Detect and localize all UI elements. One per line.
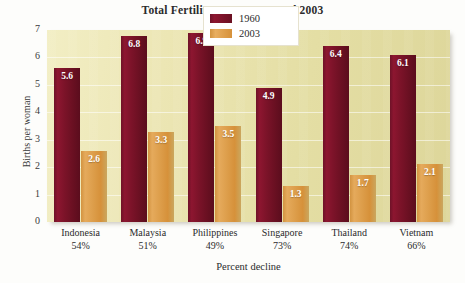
bar-group: 6.12.1: [390, 30, 443, 222]
bar-2003-indonesia: 2.6: [81, 151, 107, 222]
bar-value-label: 2.1: [417, 167, 443, 177]
bar-2003-philippines: 3.5: [215, 126, 241, 222]
x-label-vietnam: Vietnam66%: [371, 226, 461, 252]
bar-group: 5.62.6: [54, 30, 107, 222]
bar-1960-thailand: 6.4: [323, 46, 349, 222]
bar-group: 6.83.3: [121, 30, 174, 222]
legend-item-1960: 1960: [210, 11, 292, 26]
bar-1960-vietnam: 6.1: [390, 55, 416, 222]
bar-value-label: 5.6: [54, 71, 80, 81]
plot-area: 5.62.66.83.36.93.54.91.36.41.76.12.1: [47, 30, 450, 222]
bar-value-label: 3.5: [215, 129, 241, 139]
legend-item-2003: 2003: [210, 26, 292, 41]
bar-2003-malaysia: 3.3: [148, 132, 174, 223]
legend-swatch-2003-icon: [210, 29, 232, 38]
legend-swatch-1960-icon: [210, 14, 232, 23]
bar-2003-thailand: 1.7: [350, 175, 376, 222]
y-tick-label: 7: [24, 23, 40, 34]
bar-group: 4.91.3: [256, 30, 309, 222]
y-tick-label: 0: [24, 215, 40, 226]
bar-value-label: 4.9: [256, 91, 282, 101]
x-label-country: Vietnam: [371, 226, 461, 239]
bar-value-label: 6.8: [121, 39, 147, 49]
bar-2003-singapore: 1.3: [283, 186, 309, 222]
x-label-percent-decline: 66%: [371, 239, 461, 252]
bar-1960-singapore: 4.9: [256, 88, 282, 222]
legend-label-1960: 1960: [239, 13, 260, 24]
x-axis-title: Percent decline: [47, 261, 450, 272]
bar-2003-vietnam: 2.1: [417, 164, 443, 222]
bar-value-label: 6.4: [323, 49, 349, 59]
legend-label-2003: 2003: [239, 28, 260, 39]
bar-value-label: 2.6: [81, 154, 107, 164]
bar-1960-philippines: 6.9: [188, 33, 214, 222]
x-axis-category-labels: Indonesia54%Malaysia51%Philippines49%Sin…: [47, 226, 450, 260]
bar-value-label: 1.7: [350, 178, 376, 188]
bar-1960-indonesia: 5.6: [54, 68, 80, 222]
fertility-rates-chart: Total Fertility Rates, 1960 and 2003 Bir…: [0, 0, 465, 283]
y-axis-title: Births per woman: [21, 52, 32, 212]
bar-value-label: 1.3: [283, 189, 309, 199]
bar-1960-malaysia: 6.8: [121, 36, 147, 223]
bar-value-label: 6.1: [390, 58, 416, 68]
bar-group: 6.41.7: [323, 30, 376, 222]
bar-value-label: 3.3: [148, 135, 174, 145]
bar-group: 6.93.5: [188, 30, 241, 222]
chart-legend: 1960 2003: [203, 6, 299, 46]
